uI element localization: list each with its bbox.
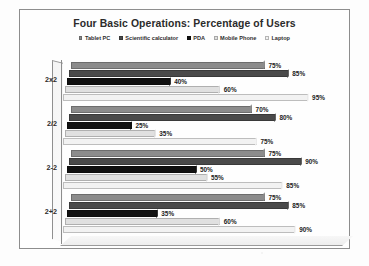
bar-value-label: 35% xyxy=(161,210,174,217)
bar-scientific-calculator[interactable] xyxy=(69,114,275,121)
bar-value-label: 85% xyxy=(286,182,299,189)
bar-row: 85% xyxy=(63,182,345,189)
bar-row: 25% xyxy=(67,122,345,129)
bar-row: 75% xyxy=(71,194,345,201)
chart-container: Four Basic Operations: Percentage of Use… xyxy=(19,9,350,249)
bar-value-label: 75% xyxy=(269,62,282,69)
bar-value-label: 75% xyxy=(269,194,282,201)
legend-swatch-icon xyxy=(265,36,269,40)
bar-value-label: 85% xyxy=(292,70,305,77)
bar-row: 60% xyxy=(65,86,345,93)
legend-swatch-icon xyxy=(214,36,218,40)
bar-group-2+2: 2+275%85%35%60%90% xyxy=(61,194,345,234)
bar-row: 70% xyxy=(71,106,345,113)
plot-area: 2x275%85%40%60%95%2/270%80%25%35%75%2-27… xyxy=(20,58,351,248)
bar-group-2-2: 2-275%90%50%55%85% xyxy=(61,150,345,190)
bar-value-label: 90% xyxy=(299,226,312,233)
bar-groups: 2x275%85%40%60%95%2/270%80%25%35%75%2-27… xyxy=(20,58,351,248)
bar-row: 55% xyxy=(65,174,345,181)
legend-label: PDA xyxy=(193,35,205,41)
bar-row: 75% xyxy=(71,62,345,69)
bar-tablet-pc[interactable] xyxy=(71,150,265,157)
bar-value-label: 80% xyxy=(279,114,292,121)
bar-value-label: 55% xyxy=(211,174,224,181)
bar-row: 85% xyxy=(69,70,345,77)
bar-tablet-pc[interactable] xyxy=(71,106,252,113)
legend-item-scientific-calculator[interactable]: Scientific calculator xyxy=(119,35,178,41)
legend-item-pda[interactable]: PDA xyxy=(187,35,205,41)
bar-laptop[interactable] xyxy=(63,226,295,233)
bar-tablet-pc[interactable] xyxy=(71,194,265,201)
bar-row: 90% xyxy=(69,158,345,165)
bar-value-label: 60% xyxy=(224,86,237,93)
bar-row: 90% xyxy=(63,226,345,233)
bar-value-label: 60% xyxy=(224,218,237,225)
bar-row: 85% xyxy=(69,202,345,209)
legend-label: Laptop xyxy=(271,35,290,41)
bar-pda[interactable] xyxy=(67,122,132,129)
bar-mobile-phone[interactable] xyxy=(65,130,155,137)
bar-laptop[interactable] xyxy=(63,182,282,189)
legend-item-laptop[interactable]: Laptop xyxy=(265,35,290,41)
scanned-page: Four Basic Operations: Percentage of Use… xyxy=(0,0,369,266)
bar-mobile-phone[interactable] xyxy=(65,174,207,181)
legend-label: Scientific calculator xyxy=(125,35,178,41)
bar-row: 50% xyxy=(67,166,345,173)
bar-group-2/2: 2/270%80%25%35%75% xyxy=(61,106,345,146)
bar-row: 60% xyxy=(65,218,345,225)
bar-row: 80% xyxy=(69,114,345,121)
bar-mobile-phone[interactable] xyxy=(65,86,220,93)
bar-value-label: 25% xyxy=(136,122,149,129)
bar-mobile-phone[interactable] xyxy=(65,218,220,225)
bar-row: 95% xyxy=(63,94,345,101)
bar-row: 75% xyxy=(71,150,345,157)
legend-label: Mobile Phone xyxy=(220,35,256,41)
bar-value-label: 40% xyxy=(174,78,187,85)
bar-scientific-calculator[interactable] xyxy=(69,202,288,209)
bar-row: 40% xyxy=(67,78,345,85)
bar-pda[interactable] xyxy=(67,210,157,217)
bar-value-label: 50% xyxy=(200,166,213,173)
bar-value-label: 90% xyxy=(305,158,318,165)
bar-value-label: 75% xyxy=(261,138,274,145)
legend-swatch-icon xyxy=(79,36,83,40)
bar-laptop[interactable] xyxy=(63,138,257,145)
bar-value-label: 95% xyxy=(312,94,325,101)
legend-swatch-icon xyxy=(187,36,191,40)
bar-scientific-calculator[interactable] xyxy=(69,158,301,165)
bar-value-label: 35% xyxy=(159,130,172,137)
category-label: 2+2 xyxy=(23,207,57,216)
legend-swatch-icon xyxy=(119,36,123,40)
bar-value-label: 75% xyxy=(269,150,282,157)
bar-pda[interactable] xyxy=(67,78,170,85)
chart-legend: Tablet PCScientific calculatorPDAMobile … xyxy=(20,35,349,41)
bar-value-label: 85% xyxy=(292,202,305,209)
category-label: 2-2 xyxy=(23,163,57,172)
bar-row: 35% xyxy=(67,210,345,217)
category-label: 2/2 xyxy=(23,119,57,128)
legend-item-mobile-phone[interactable]: Mobile Phone xyxy=(214,35,256,41)
bar-tablet-pc[interactable] xyxy=(71,62,265,69)
bar-scientific-calculator[interactable] xyxy=(69,70,288,77)
bar-group-2x2: 2x275%85%40%60%95% xyxy=(61,62,345,102)
bar-value-label: 70% xyxy=(256,106,269,113)
bar-row: 35% xyxy=(65,130,345,137)
bar-laptop[interactable] xyxy=(63,94,308,101)
legend-label: Tablet PC xyxy=(85,35,110,41)
legend-item-tablet-pc[interactable]: Tablet PC xyxy=(79,35,110,41)
bar-row: 75% xyxy=(63,138,345,145)
bar-pda[interactable] xyxy=(67,166,196,173)
chart-title: Four Basic Operations: Percentage of Use… xyxy=(20,18,349,29)
category-label: 2x2 xyxy=(23,75,57,84)
